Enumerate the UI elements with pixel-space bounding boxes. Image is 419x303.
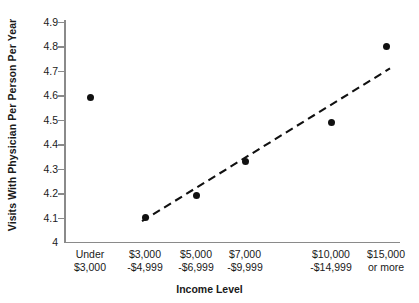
x-tick-label-line2: $3,000 xyxy=(74,261,106,274)
y-tick-label: 4.7 xyxy=(28,66,58,76)
y-tick-mark xyxy=(58,144,64,145)
data-point xyxy=(328,119,335,126)
data-point xyxy=(87,94,94,101)
y-tick-mark xyxy=(58,95,64,96)
y-tick-label: 4.8 xyxy=(28,41,58,51)
data-point xyxy=(383,43,390,50)
y-tick-mark xyxy=(58,22,64,23)
y-tick-mark xyxy=(58,120,64,121)
y-tick-mark xyxy=(58,169,64,170)
x-tick-label-line2: or more xyxy=(367,261,405,274)
y-tick-label: 4.5 xyxy=(28,115,58,125)
x-tick-label-line1: $15,000 xyxy=(367,248,405,260)
y-tick-label: 4.4 xyxy=(28,139,58,149)
y-tick-mark xyxy=(58,218,64,219)
x-tick-label-line2: -$14,999 xyxy=(310,261,351,274)
plot-area xyxy=(64,22,400,242)
data-point xyxy=(242,158,249,165)
x-tick-label-line1: $5,000 xyxy=(180,248,212,260)
y-tick-label: 4.6 xyxy=(28,90,58,100)
y-tick-label: 4.3 xyxy=(28,164,58,174)
y-tick-label: 4.2 xyxy=(28,188,58,198)
x-tick-label: $10,000-$14,999 xyxy=(310,248,351,273)
y-tick-mark xyxy=(58,71,64,72)
x-tick-label-line1: $10,000 xyxy=(312,248,350,260)
chart-figure: Visits With Physician Per Person Per Yea… xyxy=(0,0,419,303)
x-tick-label: Under$3,000 xyxy=(74,248,106,273)
x-tick-label-group: Under$3,000$3,000-$4,999$5,000-$6,999$7,… xyxy=(0,248,419,280)
x-tick-label-line1: $3,000 xyxy=(129,248,161,260)
x-tick-label: $15,000or more xyxy=(367,248,405,273)
y-tick-label: 4 xyxy=(28,237,58,247)
x-axis-title: Income Level xyxy=(0,283,419,295)
x-tick-label-line1: Under xyxy=(76,248,105,260)
y-tick-mark xyxy=(58,46,64,47)
y-tick-label: 4.1 xyxy=(28,213,58,223)
y-axis-title: Visits With Physician Per Person Per Yea… xyxy=(0,0,24,250)
x-tick-label-line2: -$4,999 xyxy=(127,261,163,274)
y-tick-label: 4.9 xyxy=(28,17,58,27)
x-axis-title-text: Income Level xyxy=(176,283,243,295)
x-tick-label: $5,000-$6,999 xyxy=(178,248,214,273)
x-tick-label-line2: -$6,999 xyxy=(178,261,214,274)
x-tick-label: $3,000-$4,999 xyxy=(127,248,163,273)
x-tick-label-line1: $7,000 xyxy=(229,248,261,260)
data-point xyxy=(142,214,149,221)
x-tick-label: $7,000-$9,999 xyxy=(227,248,263,273)
x-tick-label-line2: -$9,999 xyxy=(227,261,263,274)
y-tick-mark xyxy=(58,193,64,194)
data-point xyxy=(193,192,200,199)
y-axis-title-text: Visits With Physician Per Person Per Yea… xyxy=(6,19,18,232)
